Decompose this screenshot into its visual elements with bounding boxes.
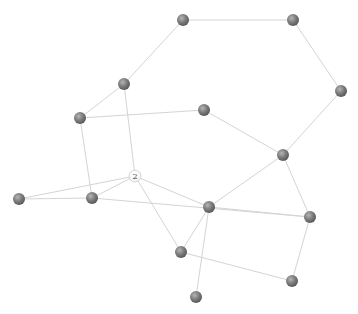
graph-node-A[interactable] <box>177 14 189 26</box>
graph-node-M[interactable] <box>190 291 202 303</box>
graph-node-C[interactable] <box>335 85 347 97</box>
node-sphere <box>198 104 210 116</box>
graph-node-D[interactable] <box>277 149 289 161</box>
graph-edge-D-J <box>283 155 310 217</box>
node-sphere <box>86 192 98 204</box>
node-sphere <box>190 291 202 303</box>
node-sphere <box>203 201 215 213</box>
graph-edge-G-D <box>204 110 283 155</box>
graph-node-N[interactable] <box>286 275 298 287</box>
graph-node-J[interactable] <box>304 211 316 223</box>
graph-node-G[interactable] <box>198 104 210 116</box>
graph-edge-N2-H <box>92 176 135 198</box>
node-sphere <box>74 112 86 124</box>
node-sphere <box>177 14 189 26</box>
nodes-layer: 2 <box>13 14 347 303</box>
graph-node-L[interactable] <box>175 246 187 258</box>
node-sphere <box>118 78 130 90</box>
node-sphere <box>287 14 299 26</box>
graph-edge-E-A <box>124 20 183 84</box>
graph-node-N2[interactable]: 2 <box>129 170 141 182</box>
node-sphere <box>175 246 187 258</box>
node-label: 2 <box>132 172 137 181</box>
node-sphere <box>13 193 25 205</box>
graph-edge-K-H <box>19 198 92 199</box>
graph-edge-J-N <box>292 217 310 281</box>
graph-edge-L-N <box>181 252 292 281</box>
graph-edge-C-D <box>283 91 341 155</box>
graph-edge-B-C <box>293 20 341 91</box>
graph-edge-E-F <box>80 84 124 118</box>
graph-edge-D-I <box>209 155 283 207</box>
graph-edge-N2-K <box>19 176 135 199</box>
graph-node-K[interactable] <box>13 193 25 205</box>
graph-edge-F-G <box>80 110 204 118</box>
graph-edge-I-M <box>196 207 209 297</box>
graph-node-H[interactable] <box>86 192 98 204</box>
node-sphere <box>335 85 347 97</box>
graph-canvas: 2 <box>0 0 358 314</box>
graph-node-I[interactable] <box>203 201 215 213</box>
graph-edge-E-N2 <box>124 84 135 176</box>
graph-edge-I-J <box>209 207 310 217</box>
graph-node-E[interactable] <box>118 78 130 90</box>
node-sphere <box>304 211 316 223</box>
node-sphere <box>277 149 289 161</box>
graph-node-B[interactable] <box>287 14 299 26</box>
node-sphere <box>286 275 298 287</box>
graph-node-F[interactable] <box>74 112 86 124</box>
graph-edge-I-L <box>181 207 209 252</box>
graph-edge-N2-L <box>135 176 181 252</box>
